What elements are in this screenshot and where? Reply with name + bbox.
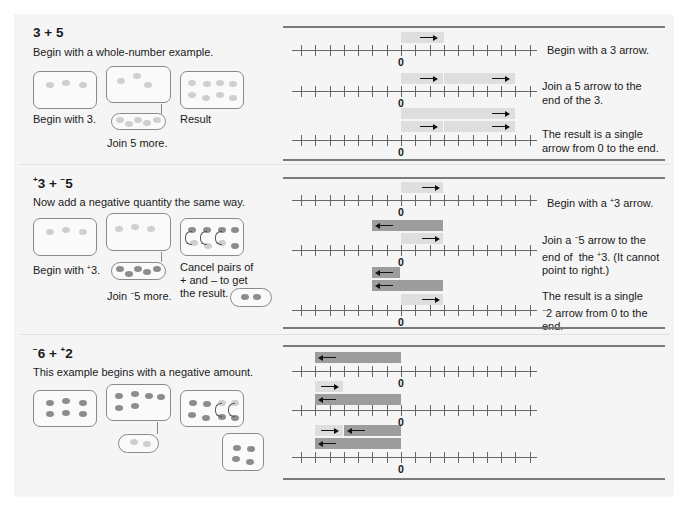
number-line-tick <box>473 366 474 377</box>
number-line-tick <box>401 405 402 416</box>
negative-counter <box>115 405 123 411</box>
number-line-tick <box>515 405 516 416</box>
number-line-tick <box>415 366 416 377</box>
negative-arrow-bar-6 <box>315 352 401 363</box>
number-line-tick <box>515 452 516 463</box>
number-line-tick <box>430 452 431 463</box>
number-line-tick <box>387 405 388 416</box>
negative-counter <box>157 394 165 400</box>
begin-counters-box <box>33 390 97 427</box>
negative-counter <box>246 459 254 465</box>
number-line-tick <box>372 366 373 377</box>
section-subtitle: This example begins with a negative amou… <box>33 366 253 378</box>
number-line-tick <box>501 452 502 463</box>
negative-counter <box>131 403 139 409</box>
result-counters-box <box>222 433 264 471</box>
negative-counter <box>145 393 153 399</box>
number-line-tick <box>487 405 488 416</box>
negative-counter <box>62 410 70 416</box>
number-line-tick <box>415 405 416 416</box>
operator: + <box>45 346 60 361</box>
number-line-tick <box>473 452 474 463</box>
left-arrow-icon <box>349 430 365 431</box>
number-line-tick <box>301 366 302 377</box>
number-line-tick <box>515 366 516 377</box>
number-line-tick <box>330 366 331 377</box>
negative-counter <box>203 401 211 407</box>
negative-counter <box>247 446 255 452</box>
number-line-tick <box>358 452 359 463</box>
zero-label: 0 <box>398 416 404 428</box>
number-line-tick <box>458 405 459 416</box>
join-arrow-connector <box>157 422 158 434</box>
left-arrow-icon <box>320 443 336 444</box>
number-line-tick <box>444 452 445 463</box>
positive-counter <box>130 439 138 445</box>
number-line-tick <box>301 452 302 463</box>
number-line-tick <box>458 452 459 463</box>
number-line-tick <box>430 366 431 377</box>
zero-label: 0 <box>398 463 404 475</box>
number-line-tick <box>530 366 531 377</box>
number-line-tick <box>444 405 445 416</box>
number-line-tick <box>387 366 388 377</box>
zero-label: 0 <box>398 377 404 389</box>
number-line-tick <box>344 452 345 463</box>
right-arrow-icon <box>321 386 337 387</box>
negative-counter <box>189 400 197 406</box>
number-line-tick <box>315 452 316 463</box>
negative-arrow-bar-6 <box>315 438 401 449</box>
positive-arrow-bar-2 <box>315 425 343 436</box>
number-line-tick <box>315 405 316 416</box>
number-line-tick <box>501 366 502 377</box>
number-line-tick <box>530 452 531 463</box>
negative-counter <box>62 398 70 404</box>
number-line-tick <box>487 452 488 463</box>
cancel-link-icon <box>228 403 235 417</box>
negative-counter <box>46 411 54 417</box>
negative-counter <box>188 412 196 418</box>
negative-counter <box>232 456 240 462</box>
number-line-tick <box>487 366 488 377</box>
number-line-tick <box>415 452 416 463</box>
section-title: −6 + +2 <box>33 345 73 361</box>
negative-counter <box>233 445 241 451</box>
number-line-tick <box>330 452 331 463</box>
negative-counter <box>131 391 139 397</box>
number-line-tick <box>315 366 316 377</box>
number-line-tick <box>430 405 431 416</box>
number-line-tick <box>330 405 331 416</box>
cancel-link-icon <box>215 403 222 417</box>
number-line-tick <box>444 366 445 377</box>
number-line-tick <box>358 366 359 377</box>
cancel-pairs-box <box>180 390 244 427</box>
negative-arrow-bar-6 <box>315 394 401 405</box>
number-line-tick <box>372 405 373 416</box>
negative-counter <box>46 400 54 406</box>
number-line-tick <box>501 405 502 416</box>
number-line-tick <box>401 452 402 463</box>
join-target-box <box>106 384 171 421</box>
number-line-tick <box>358 405 359 416</box>
number-line-tick <box>344 405 345 416</box>
left-arrow-icon <box>320 399 336 400</box>
negative-counter <box>79 400 87 406</box>
negative-counter <box>79 411 87 417</box>
number-line-tick <box>301 405 302 416</box>
section-bottom-rule <box>283 478 665 480</box>
number-line-tick <box>372 452 373 463</box>
number-line-tick <box>344 366 345 377</box>
section-top-rule <box>283 345 665 347</box>
section-neg6-plus-pos2: −6 + +2 This example begins with a negat… <box>0 0 695 505</box>
positive-counter <box>143 441 151 447</box>
positive-arrow-bar-2 <box>315 381 343 392</box>
negative-counter <box>202 415 210 421</box>
number-line-tick <box>387 452 388 463</box>
number-line-tick <box>530 405 531 416</box>
left-arrow-icon <box>320 357 336 358</box>
number-line-tick <box>473 405 474 416</box>
result-arrow-bar-neg4 <box>344 425 401 436</box>
number-line-tick <box>401 366 402 377</box>
operand-b: 2 <box>65 346 73 361</box>
join-counters-pill <box>118 434 159 453</box>
